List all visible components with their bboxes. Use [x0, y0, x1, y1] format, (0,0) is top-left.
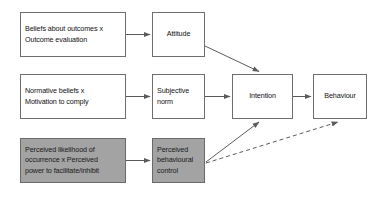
- node-behaviour: Behaviour: [313, 74, 367, 119]
- node-label: Perceived likelihood of occurrence x Per…: [25, 145, 99, 177]
- node-label: Attitude: [167, 29, 191, 40]
- node-label: Beliefs about outcomes x Outcome evaluat…: [25, 24, 103, 45]
- theory-of-planned-behaviour-diagram: Beliefs about outcomes x Outcome evaluat…: [0, 0, 387, 201]
- node-perceived-likelihood: Perceived likelihood of occurrence x Per…: [20, 138, 126, 183]
- edge-control-to-behaviour: [206, 122, 338, 163]
- node-intention: Intention: [232, 74, 293, 119]
- node-beliefs-outcomes: Beliefs about outcomes x Outcome evaluat…: [20, 12, 126, 57]
- node-label: Normative beliefs x Motivation to comply: [25, 86, 89, 107]
- node-perceived-control: Perceived behavioural control: [152, 138, 205, 183]
- node-attitude: Attitude: [152, 12, 205, 57]
- node-normative-beliefs: Normative beliefs x Motivation to comply: [20, 74, 126, 119]
- node-label: Subjective norm: [157, 86, 189, 107]
- edge-attitude-to-intention: [205, 46, 259, 72]
- node-label: Perceived behavioural control: [157, 145, 193, 177]
- node-label: Intention: [249, 91, 276, 102]
- node-label: Behaviour: [324, 91, 355, 102]
- edge-control-to-intention: [206, 122, 259, 162]
- node-subjective-norm: Subjective norm: [152, 74, 205, 119]
